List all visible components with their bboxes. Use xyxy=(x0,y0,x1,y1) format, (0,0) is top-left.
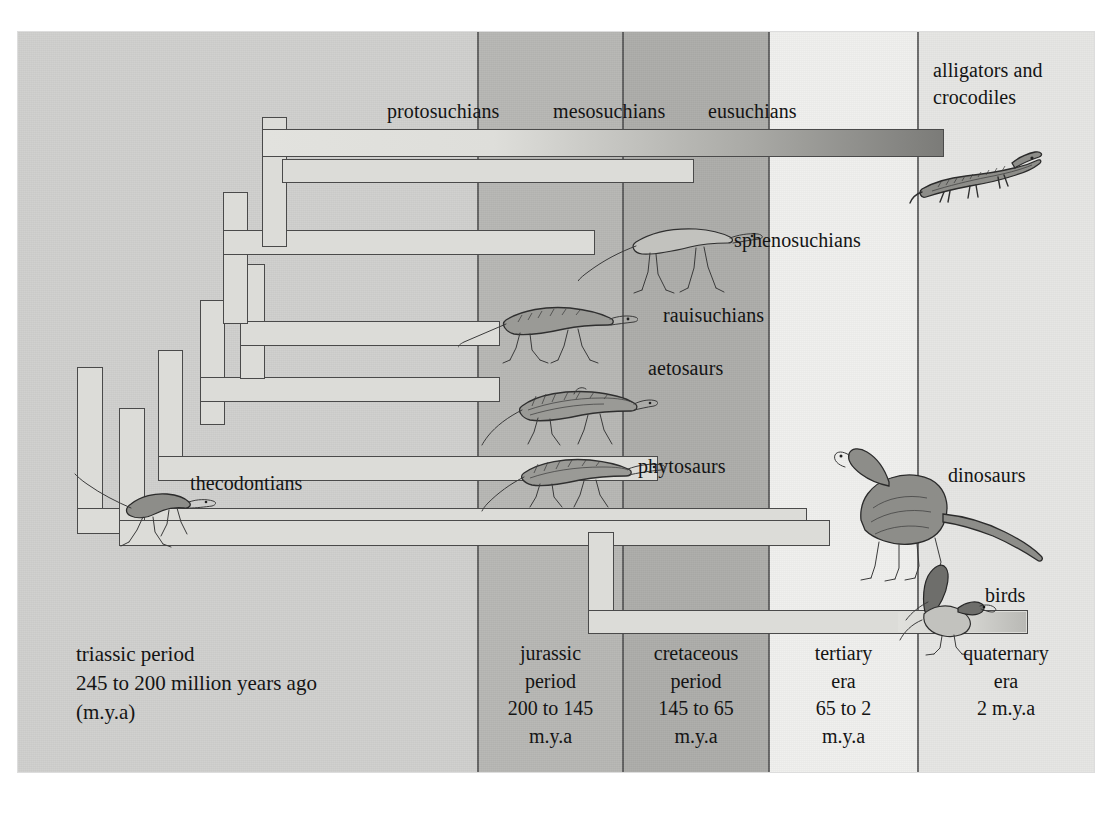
period-label-tertiary: tertiary era 65 to 2 m.y.a xyxy=(771,640,916,750)
label-protosuchians: protosuchians xyxy=(387,100,499,123)
label-thecodontians: thecodontians xyxy=(190,472,302,495)
label-eusuchians: eusuchians xyxy=(708,100,797,123)
label-alligators-and-crocodiles: alligators and crocodiles xyxy=(933,57,1043,111)
artwork-rauisuchian xyxy=(458,290,638,365)
branch-dinosaurs-horizontal xyxy=(119,520,830,546)
label-rauisuchians: rauisuchians xyxy=(663,304,764,327)
branch-aetosaurs-horizontal xyxy=(200,377,500,402)
period-label-jurassic: jurassic period 200 to 145 m.y.a xyxy=(480,640,621,750)
branch-protosuchians-inner xyxy=(282,159,694,183)
label-dinosaurs: dinosaurs xyxy=(948,464,1026,487)
artwork-alligator xyxy=(908,142,1048,222)
branch-aetosaurs-vertical xyxy=(200,300,225,425)
branch-birds-vertical xyxy=(588,532,614,622)
label-phytosaurs: phytosaurs xyxy=(638,455,726,478)
branch-sphenosuchians-vertical xyxy=(223,192,248,324)
label-sphenosuchians: sphenosuchians xyxy=(734,229,861,252)
label-mesosuchians: mesosuchians xyxy=(553,100,665,123)
label-birds: birds xyxy=(985,584,1026,607)
cladogram-figure: protosuchians mesosuchians eusuchians al… xyxy=(18,32,1094,772)
branch-crocodylomorph-horizontal xyxy=(262,129,944,157)
period-label-quaternary: quaternary era 2 m.y.a xyxy=(920,640,1092,723)
period-label-triassic: triassic period 245 to 200 million years… xyxy=(76,640,456,727)
period-label-cretaceous: cretaceous period 145 to 65 m.y.a xyxy=(625,640,767,750)
label-aetosaurs: aetosaurs xyxy=(648,357,723,380)
figure-root: protosuchians mesosuchians eusuchians al… xyxy=(0,0,1112,813)
artwork-dinosaur xyxy=(813,442,1043,582)
